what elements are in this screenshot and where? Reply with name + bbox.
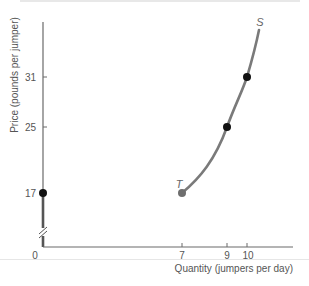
x-tick-label-10: 10: [242, 250, 254, 261]
supply-chart: 31 25 17 0 7 9 10 Quantity (jumpers per …: [0, 0, 309, 286]
y-axis-title: Price (pounds per jumper): [9, 17, 20, 133]
x-axis-title: Quantity (jumpers per day): [175, 263, 293, 274]
x-tick-label-9: 9: [224, 250, 230, 261]
x-tick-label-7: 7: [179, 250, 185, 261]
curve-start-label-t: T: [176, 178, 184, 190]
y-tick-label-17: 17: [25, 188, 37, 199]
point-0-17: [39, 189, 47, 197]
point-t: [178, 189, 186, 197]
origin-label: 0: [32, 250, 38, 261]
curve-label-s: S: [256, 16, 264, 28]
point-9-25: [223, 123, 231, 131]
y-tick-label-31: 31: [25, 72, 37, 83]
point-10-31: [243, 73, 251, 81]
y-tick-label-25: 25: [25, 122, 37, 133]
supply-curve: [182, 30, 259, 193]
